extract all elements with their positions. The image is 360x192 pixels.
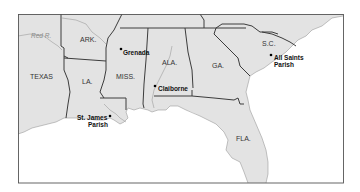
state-label-georgia: GA. <box>212 62 224 69</box>
place-marker-st-james-parish <box>109 115 112 118</box>
state-label-arkansas: ARK. <box>80 36 96 43</box>
state-label-texas: TEXAS <box>30 73 53 80</box>
state-label-alabama: ALA. <box>162 59 177 66</box>
place-marker-claiborne <box>154 85 157 88</box>
state-label-south-carolina: S.C. <box>262 40 276 47</box>
place-marker-grenada <box>120 48 123 51</box>
state-label-louisiana: LA. <box>82 78 93 85</box>
river-label-red: Red R. <box>31 32 51 39</box>
place-label-st-james-line2: Parish <box>88 121 108 128</box>
place-label-grenada: Grenada <box>123 49 150 56</box>
place-label-st-james-line1: St. James <box>77 114 108 121</box>
state-label-florida: FLA. <box>236 135 251 142</box>
place-label-all-saints-line1: All Saints <box>274 54 304 61</box>
state-label-mississippi: MISS. <box>116 73 135 80</box>
land-mass <box>18 14 343 183</box>
place-label-all-saints-line2: Parish <box>274 61 294 68</box>
place-marker-all-saints-parish <box>270 54 273 57</box>
southeast-us-map: TEXAS ARK. LA. MISS. ALA. GA. S.C. FLA. … <box>0 0 360 192</box>
place-label-claiborne: Claiborne <box>158 85 188 92</box>
